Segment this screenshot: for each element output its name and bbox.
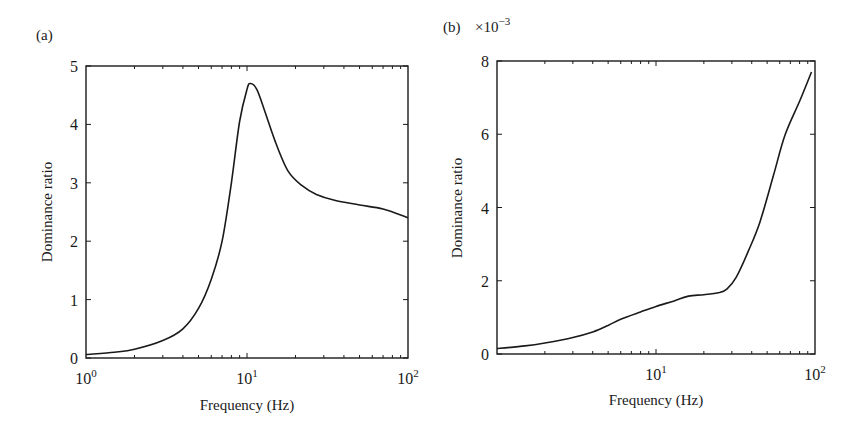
x-axis-label-b: Frequency (Hz) [609,392,704,409]
x-tick-labels-b: 101102 [645,363,826,383]
y-axis-label-a: Dominance ratio [39,162,55,262]
y-tick-label: 6 [481,126,489,143]
x-tick-label: 101 [236,367,258,387]
ticks-a [86,66,408,358]
figure: (a) 012345 100101102 Frequency (Hz) Domi… [0,0,867,439]
y-tick-label: 0 [481,346,489,363]
data-line-b [497,72,812,349]
y-multiplier-b: ×10−3 [475,15,511,35]
x-tick-label: 100 [75,367,97,387]
chart-panel-b: (b) ×10−3 02468 101102 Frequency (Hz) Do… [443,15,826,409]
x-tick-labels-a: 100101102 [75,367,419,387]
y-tick-label: 2 [70,233,78,250]
chart-panel-a: (a) 012345 100101102 Frequency (Hz) Domi… [36,27,419,414]
plot-frame-a [86,66,408,358]
x-tick-label: 102 [397,367,419,387]
y-axis-label-b: Dominance ratio [449,158,465,258]
y-multiplier-exp: −3 [498,15,510,27]
y-tick-labels-b: 02468 [481,53,489,363]
x-tick-label: 101 [645,363,667,383]
y-tick-label: 4 [70,116,78,133]
x-axis-label-a: Frequency (Hz) [200,397,295,414]
y-tick-labels-a: 012345 [70,58,78,367]
x-tick-label: 102 [804,363,826,383]
ticks-b [497,61,815,354]
data-line-a [86,83,408,354]
y-tick-label: 0 [70,350,78,367]
y-tick-label: 5 [70,58,78,75]
y-tick-label: 3 [70,175,78,192]
panel-label-a: (a) [36,27,53,44]
y-tick-label: 2 [481,273,489,290]
y-tick-label: 8 [481,53,489,70]
y-tick-label: 1 [70,292,78,309]
plot-frame-b [497,61,815,354]
y-multiplier-base: ×10 [475,19,498,35]
panel-label-b: (b) [443,19,461,36]
y-tick-label: 4 [481,200,489,217]
